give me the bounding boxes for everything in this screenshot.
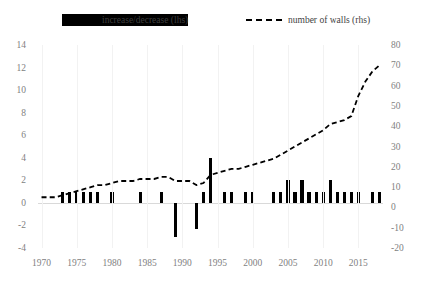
bar	[160, 192, 163, 203]
legend-item-increase-decrease: increase/decrease (lhs)	[62, 14, 188, 26]
left-axis-tick-label: 10	[0, 85, 26, 95]
plot-area	[38, 45, 383, 248]
legend-bar-swatch-icon	[62, 17, 96, 24]
x-gridline	[218, 45, 219, 248]
x-gridline	[147, 45, 148, 248]
x-axis-tick-label: 2010	[314, 258, 333, 268]
x-axis-tick-label: 2005	[278, 258, 297, 268]
right-axis-tick-label: 50	[391, 101, 401, 111]
chart-legend: increase/decrease (lhs) number of walls …	[0, 14, 431, 34]
x-axis-tick-label: 1970	[32, 258, 51, 268]
legend-dashed-line-swatch-icon	[246, 19, 282, 21]
bar	[279, 192, 282, 203]
bar	[336, 192, 339, 203]
right-axis-tick-label: -10	[391, 223, 404, 233]
x-axis-tick-label: 1975	[67, 258, 86, 268]
bar	[378, 192, 381, 203]
x-gridline	[253, 45, 254, 248]
zero-baseline	[38, 203, 383, 204]
x-axis-tick-label: 2000	[243, 258, 262, 268]
x-gridline	[182, 45, 183, 248]
x-axis-tick-label: 1990	[173, 258, 192, 268]
bar	[272, 192, 275, 203]
left-axis-tick-label: -4	[0, 243, 26, 253]
x-gridline	[323, 45, 324, 248]
bar	[89, 192, 92, 203]
bar	[343, 192, 346, 203]
bar	[195, 203, 198, 229]
chart-figure: increase/decrease (lhs) number of walls …	[0, 0, 431, 285]
x-axis-tick-label: 1995	[208, 258, 227, 268]
bar	[202, 192, 205, 203]
left-axis-tick-label: -2	[0, 220, 26, 230]
bar	[82, 192, 85, 203]
bar	[230, 192, 233, 203]
x-axis-tick-label: 1980	[102, 258, 121, 268]
x-gridline	[358, 45, 359, 248]
x-gridline	[288, 45, 289, 248]
bar	[244, 192, 247, 203]
left-axis-tick-label: 2	[0, 175, 26, 185]
right-axis-tick-label: 60	[391, 81, 401, 91]
x-gridline	[42, 45, 43, 248]
left-axis-tick-label: 0	[0, 198, 26, 208]
bar	[139, 192, 142, 203]
bar	[174, 203, 177, 237]
legend-item-label: increase/decrease (lhs)	[102, 14, 188, 26]
x-axis-tick-label: 2015	[349, 258, 368, 268]
bar	[209, 158, 212, 203]
legend-item-number-of-walls: number of walls (rhs)	[246, 14, 370, 26]
legend-item-label: number of walls (rhs)	[288, 14, 370, 26]
bar	[371, 192, 374, 203]
x-axis-tick-label: 1985	[138, 258, 157, 268]
left-axis-tick-label: 14	[0, 40, 26, 50]
right-axis-tick-label: 10	[391, 182, 401, 192]
right-axis-tick-label: 80	[391, 40, 401, 50]
bar	[315, 192, 318, 203]
right-axis-tick-label: 40	[391, 121, 401, 131]
bar	[223, 192, 226, 203]
bar	[61, 192, 64, 203]
bar	[307, 192, 310, 203]
right-axis-tick-label: -20	[391, 243, 404, 253]
right-axis-tick-label: 30	[391, 142, 401, 152]
bar	[293, 192, 296, 203]
right-axis-tick-label: 20	[391, 162, 401, 172]
x-gridline	[77, 45, 78, 248]
left-axis-tick-label: 4	[0, 153, 26, 163]
bar	[329, 180, 332, 203]
left-axis-tick-label: 8	[0, 108, 26, 118]
bar	[68, 192, 71, 203]
left-axis-tick-label: 12	[0, 63, 26, 73]
bar	[300, 180, 303, 203]
right-axis-tick-label: 0	[391, 202, 396, 212]
right-axis-tick-label: 70	[391, 60, 401, 70]
bar	[350, 192, 353, 203]
left-axis-tick-label: 6	[0, 130, 26, 140]
x-gridline	[112, 45, 113, 248]
bar	[96, 192, 99, 203]
